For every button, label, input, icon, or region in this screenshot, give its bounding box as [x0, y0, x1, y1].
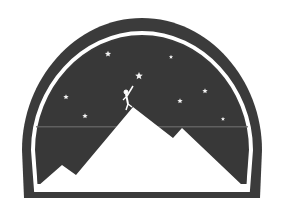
mountain-dome-logo — [0, 0, 284, 219]
ground-strip — [37, 184, 247, 189]
